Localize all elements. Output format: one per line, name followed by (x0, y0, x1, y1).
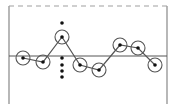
point-dot-icon (60, 35, 64, 39)
data-point (113, 38, 127, 52)
point-dot-icon (41, 60, 45, 64)
data-point (148, 58, 162, 72)
point-dot-icon (21, 56, 25, 60)
data-points-group (16, 30, 162, 77)
extra-dot-icon (60, 56, 64, 60)
data-point (92, 63, 106, 77)
extra-dot-icon (60, 21, 64, 25)
data-point (73, 58, 87, 72)
point-dot-icon (78, 63, 82, 67)
extra-dot-icon (60, 75, 64, 79)
data-point (55, 30, 69, 44)
extra-dot-icon (60, 69, 64, 73)
data-point (131, 41, 145, 55)
point-dot-icon (153, 63, 157, 67)
extra-dot-icon (60, 63, 64, 67)
control-chart-diagram (0, 0, 180, 104)
point-dot-icon (118, 43, 122, 47)
data-point (36, 55, 50, 69)
point-dot-icon (136, 46, 140, 50)
point-dot-icon (97, 68, 101, 72)
data-point (16, 51, 30, 65)
